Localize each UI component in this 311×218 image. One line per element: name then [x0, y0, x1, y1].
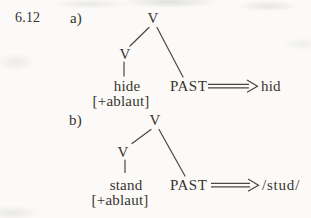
tree-a-child-node: V [119, 47, 130, 62]
tree-b-root-node: V [149, 113, 160, 128]
tree-a-output: hid [261, 79, 281, 94]
tree-a-leaf-word: hide [114, 79, 141, 94]
edge-root-to-past [159, 130, 185, 177]
item-a-label: a) [70, 11, 82, 26]
double-arrow-right-icon [208, 80, 258, 92]
example-number: 6.12 [15, 11, 40, 25]
edge-root-to-past [157, 28, 183, 78]
tree-a-past-node: PAST [170, 79, 207, 94]
tree-b-edges [125, 130, 185, 177]
edge-root-to-child [130, 28, 149, 47]
tree-a-feature: [+ablaut] [93, 94, 150, 109]
item-b-label: b) [69, 113, 82, 128]
edge-root-to-child [132, 130, 151, 144]
tree-b-feature: [+ablaut] [92, 193, 149, 208]
tree-b-leaf-word: stand [110, 178, 143, 193]
tree-a-edges [124, 28, 183, 78]
scanned-textbook-figure: 6.12 a) V V hide [+ablaut] PAST hid b) V… [0, 0, 311, 218]
tree-b-output: /stud/ [262, 178, 300, 193]
tree-b-past-node: PAST [170, 178, 207, 193]
tree-a-root-node: V [147, 11, 158, 26]
tree-b-child-node: V [117, 145, 128, 160]
double-arrow-right-icon [211, 179, 259, 191]
